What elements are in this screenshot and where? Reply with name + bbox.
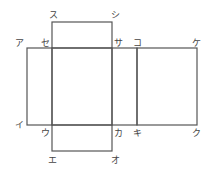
- label-ke: ケ: [192, 38, 201, 48]
- prism-net-diagram: ス シ ア セ サ コ ケ イ ウ カ キ ク エ オ: [0, 0, 213, 172]
- back-face: [137, 48, 197, 125]
- label-a: ア: [15, 38, 24, 48]
- label-o: オ: [111, 155, 120, 165]
- label-e: エ: [48, 155, 57, 165]
- label-ku: ク: [192, 128, 201, 138]
- label-u: ウ: [41, 128, 50, 138]
- bottom-face: [52, 125, 112, 151]
- label-su: ス: [49, 10, 58, 20]
- right-face: [112, 48, 137, 125]
- label-ki: キ: [133, 128, 142, 138]
- front-face: [52, 48, 112, 125]
- label-sa: サ: [114, 38, 123, 48]
- label-ko: コ: [133, 38, 142, 48]
- label-ka: カ: [114, 128, 123, 138]
- label-i: イ: [15, 120, 24, 130]
- vertex-labels: ス シ ア セ サ コ ケ イ ウ カ キ ク エ オ: [15, 10, 201, 165]
- label-shi: シ: [111, 10, 120, 20]
- left-face: [27, 48, 52, 125]
- top-face: [52, 22, 112, 48]
- label-se: セ: [41, 38, 50, 48]
